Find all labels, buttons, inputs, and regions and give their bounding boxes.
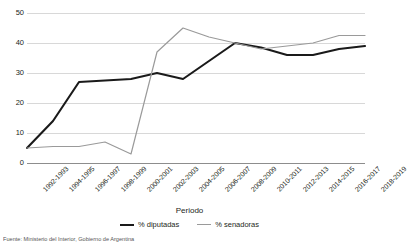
- legend-item-senadoras[interactable]: % senadoras: [197, 220, 259, 229]
- y-axis: 01020304050: [0, 0, 24, 176]
- x-tick-label: 2018-2019: [380, 165, 408, 193]
- legend-item-diputadas[interactable]: % diputadas: [120, 220, 179, 229]
- x-tick-label: 2004-2005: [198, 165, 226, 193]
- legend-line-icon-senadoras: [197, 224, 211, 225]
- x-axis: 1992-19931994-19951996-19971998-19992000…: [27, 165, 365, 210]
- x-tick-label: 2016-2017: [354, 165, 382, 193]
- x-tick-label: 1994-1995: [68, 165, 96, 193]
- x-tick-label: 2000-2001: [146, 165, 174, 193]
- plot-area: [27, 13, 365, 163]
- legend-label-diputadas: % diputadas: [138, 220, 179, 229]
- x-tick-label: 2008-2009: [250, 165, 278, 193]
- x-tick-label: 2006-2007: [224, 165, 252, 193]
- y-tick-label: 40: [2, 39, 24, 47]
- y-tick-label: 50: [2, 9, 24, 17]
- series-line-diputadas: [27, 43, 365, 148]
- source-note: Fuente: Ministerio del Interior, Gobiern…: [3, 236, 293, 243]
- y-tick-label: 10: [2, 129, 24, 137]
- series-line-senadoras: [27, 28, 365, 154]
- chart-legend: % diputadas % senadoras: [0, 220, 379, 229]
- legend-label-senadoras: % senadoras: [215, 220, 259, 229]
- y-tick-label: 30: [2, 69, 24, 77]
- series-lines: [27, 13, 365, 163]
- x-tick-label: 2002-2003: [172, 165, 200, 193]
- x-tick-label: 2012-2013: [302, 165, 330, 193]
- x-tick-label: 1998-1999: [120, 165, 148, 193]
- x-tick-label: 2010-2011: [275, 165, 303, 193]
- x-tick-label: 1992-1993: [42, 165, 70, 193]
- y-tick-label: 20: [2, 99, 24, 107]
- x-tick-label: 2014-2015: [328, 165, 356, 193]
- x-axis-title: Periodo: [0, 206, 379, 215]
- x-tick-label: 1996-1997: [94, 165, 122, 193]
- gridline-0: [27, 163, 365, 164]
- y-tick-label: 0: [2, 159, 24, 167]
- legend-line-icon-diputadas: [120, 224, 134, 226]
